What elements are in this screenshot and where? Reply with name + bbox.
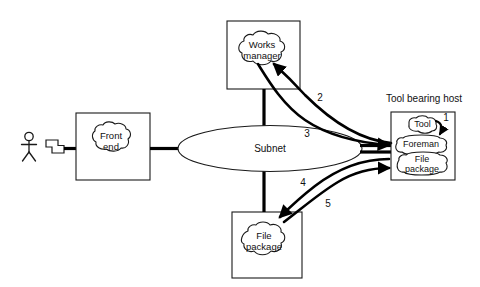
diagram-canvas: Front end Works manager File package Sub… — [0, 0, 480, 287]
host-file-package-label-line1: File — [415, 154, 430, 164]
flow-label-2: 2 — [317, 92, 323, 103]
host-file-package-label-line2: package — [405, 164, 439, 174]
flow-label-1: 1 — [443, 112, 449, 123]
front-end-label-line2: end — [103, 141, 119, 152]
front-end-label-line1: Front — [100, 130, 123, 141]
file-package-remote-box: File package — [232, 212, 302, 278]
works-manager-label-line1: Works — [249, 39, 276, 50]
file-package-remote-label-line2: package — [246, 241, 282, 252]
tool-label: Tool — [414, 119, 431, 129]
works-manager-label-line2: manager — [243, 50, 281, 61]
front-end-box: Front end — [76, 113, 150, 180]
flow-label-3: 3 — [304, 128, 310, 139]
terminal-icon — [46, 140, 64, 153]
host-file-package-node: File package — [397, 152, 447, 175]
flow-label-5: 5 — [325, 198, 331, 209]
file-package-remote-label-line1: File — [256, 230, 271, 241]
architecture-diagram: Front end Works manager File package Sub… — [0, 0, 480, 287]
subnet-label: Subnet — [254, 143, 286, 154]
user-actor-icon — [22, 132, 37, 161]
tool-node: Tool — [409, 116, 437, 134]
subnet-ellipse: Subnet — [178, 126, 362, 172]
foreman-label: Foreman — [403, 139, 439, 149]
flow-label-4: 4 — [300, 177, 306, 188]
tool-bearing-host-title: Tool bearing host — [386, 93, 462, 104]
